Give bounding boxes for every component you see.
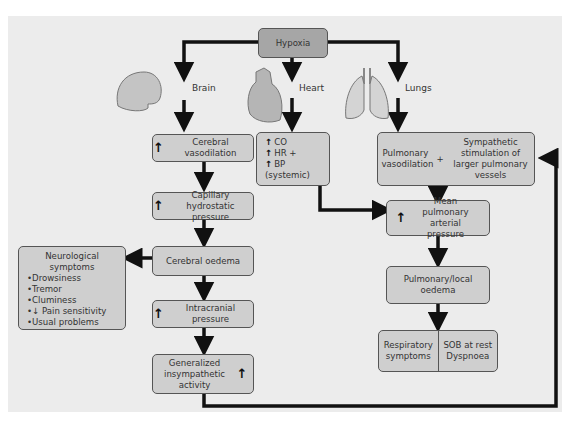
increase-icon: ↑ [265, 137, 272, 147]
increase-icon: ↑ [265, 159, 272, 169]
symptom-item: Usual problems [27, 317, 117, 328]
increase-icon [396, 212, 411, 225]
neuro-symptoms-box: Neurological symptoms Drowsiness Tremor … [18, 246, 126, 330]
increase-icon [153, 308, 168, 321]
increase-icon [237, 368, 252, 381]
brain-icon [114, 68, 164, 114]
icp-label: Intracranial pressure [168, 303, 253, 325]
co-label: CO [274, 137, 287, 147]
respiratory-symptoms-label: Respiratory symptoms [379, 340, 438, 362]
mean-pap-label: Mean pulmonary arterial pressure [410, 196, 480, 240]
sympathetic-stimulation-label: Sympathetic stimulation of larger pulmon… [451, 137, 531, 181]
heart-effects-box: ↑CO ↑HR + ↑BP (systemic) [256, 132, 330, 186]
sob-cell: SOB at rest Dyspnoea [439, 331, 498, 371]
sob-label: SOB at rest Dyspnoea [439, 340, 498, 362]
pulmonary-oedema-label: Pulmonary/local oedema [403, 274, 473, 296]
label-brain: Brain [192, 83, 216, 93]
symptom-item: ↓ Pain sensitivity [27, 306, 117, 317]
symptom-item: Cluminess [27, 295, 117, 306]
sympathetic-activity-box: Generalized insympathetic activity [152, 354, 254, 394]
pulmonary-vasodilation-label: Pulmonary vasodilation [381, 148, 429, 170]
capillary-pressure-box: Capillary hydrostatic pressure [152, 192, 254, 220]
respiratory-symptoms-cell: Respiratory symptoms [379, 331, 439, 371]
mean-pap-box: Mean pulmonary arterial pressure [386, 200, 490, 236]
increase-icon: ↑ [265, 148, 272, 158]
symptom-item: Tremor [27, 284, 117, 295]
increase-icon [153, 200, 168, 213]
neuro-title: Neurological symptoms [27, 251, 117, 273]
hr-label: HR + [274, 148, 296, 158]
hypoxia-box: Hypoxia [258, 28, 328, 58]
pulmonary-response-box: Pulmonary vasodilation + Sympathetic sti… [377, 132, 535, 186]
label-lungs: Lungs [405, 83, 432, 93]
cerebral-vasodilation-label: Cerebral vasodilation [168, 137, 253, 159]
cerebral-vasodilation-box: Cerebral vasodilation [152, 134, 254, 162]
neuro-list: Drowsiness Tremor Cluminess ↓ Pain sensi… [27, 273, 117, 328]
plus-sign: + [436, 154, 443, 165]
capillary-pressure-label: Capillary hydrostatic pressure [168, 190, 253, 223]
cerebral-oedema-label: Cerebral oedema [166, 256, 240, 267]
hypoxia-label: Hypoxia [276, 38, 311, 49]
symptom-item: Drowsiness [27, 273, 117, 284]
intracranial-pressure-box: Intracranial pressure [152, 300, 254, 328]
symptoms-box: Respiratory symptoms SOB at rest Dyspnoe… [378, 330, 498, 372]
label-heart: Heart [299, 83, 324, 93]
lungs-icon [342, 66, 392, 122]
pulmonary-oedema-box: Pulmonary/local oedema [386, 266, 490, 304]
sympathetic-label: Generalized insympathetic activity [155, 358, 235, 391]
arrow-heart-mpap [320, 186, 382, 210]
cerebral-oedema-box: Cerebral oedema [152, 246, 254, 276]
increase-icon [153, 142, 168, 155]
heart-icon [246, 64, 286, 124]
